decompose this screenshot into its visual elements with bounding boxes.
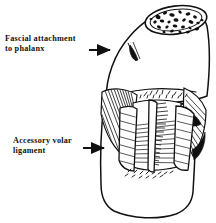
label-fascial-line2: to phalanx xyxy=(5,44,76,54)
label-fascial-attachment: Fascial attachment to phalanx xyxy=(5,34,76,54)
label-accessory-line1: Accessory volar xyxy=(13,136,72,146)
label-accessory-volar-ligament: Accessory volar ligament xyxy=(13,136,72,156)
anatomical-figure: Fascial attachment to phalanx Accessory … xyxy=(0,0,216,223)
label-fascial-line1: Fascial attachment xyxy=(5,34,76,44)
label-accessory-line2: ligament xyxy=(13,146,72,156)
